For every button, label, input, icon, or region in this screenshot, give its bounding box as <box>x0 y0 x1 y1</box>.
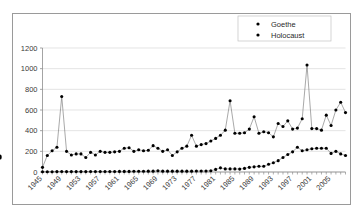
data-point <box>281 125 284 128</box>
chart-figure: 0200400600800100012001945194919531957196… <box>0 0 364 221</box>
data-point <box>305 148 308 151</box>
data-point <box>46 170 49 173</box>
data-point <box>320 147 323 150</box>
y-tick-label: 1200 <box>21 44 38 53</box>
data-point <box>94 153 97 156</box>
data-point <box>128 170 131 173</box>
data-point <box>60 170 63 173</box>
data-point <box>171 154 174 157</box>
data-point <box>108 170 111 173</box>
data-point <box>113 150 116 153</box>
data-point <box>152 170 155 173</box>
data-point <box>291 128 294 131</box>
y-tick-label: 600 <box>25 106 38 115</box>
data-point <box>190 170 193 173</box>
data-point <box>219 166 222 169</box>
data-point <box>89 170 92 173</box>
data-point <box>310 127 313 130</box>
data-point <box>262 130 265 133</box>
data-point <box>344 111 347 114</box>
data-point <box>339 101 342 104</box>
data-point <box>60 95 63 98</box>
data-point <box>70 153 73 156</box>
data-point <box>229 99 232 102</box>
data-point <box>137 170 140 173</box>
data-point <box>209 169 212 172</box>
data-point <box>180 147 183 150</box>
data-point <box>79 152 82 155</box>
data-point <box>257 165 260 168</box>
data-point <box>286 119 289 122</box>
data-point <box>185 170 188 173</box>
legend-marker-holocaust <box>256 33 259 36</box>
data-point <box>339 152 342 155</box>
data-point <box>79 170 82 173</box>
data-point <box>257 132 260 135</box>
x-tick-label: 1949 <box>45 174 63 192</box>
data-point <box>325 147 328 150</box>
data-point <box>123 170 126 173</box>
data-point <box>204 169 207 172</box>
data-point <box>84 170 87 173</box>
data-point <box>180 170 183 173</box>
data-point <box>243 131 246 134</box>
data-point <box>310 147 313 150</box>
data-point <box>334 150 337 153</box>
data-point <box>161 170 164 173</box>
data-point <box>55 170 58 173</box>
data-point <box>238 168 241 171</box>
data-point <box>200 170 203 173</box>
data-point <box>243 167 246 170</box>
x-tick-label: 1997 <box>276 174 294 192</box>
data-point <box>224 129 227 132</box>
data-point <box>301 149 304 152</box>
data-point <box>248 166 251 169</box>
x-tick-label: 1965 <box>122 174 140 192</box>
data-point <box>70 170 73 173</box>
data-point <box>103 151 106 154</box>
data-point <box>320 129 323 132</box>
data-point <box>142 170 145 173</box>
y-axis-labels: 020040060080010001200 <box>21 44 43 177</box>
data-point <box>204 142 207 145</box>
data-point <box>195 145 198 148</box>
data-point <box>277 159 280 162</box>
x-tick-label: 1981 <box>199 174 217 192</box>
legend-marker-goethe <box>256 22 259 25</box>
data-point <box>176 170 179 173</box>
data-point <box>219 134 222 137</box>
chart-canvas: 0200400600800100012001945194919531957196… <box>0 0 364 221</box>
data-point <box>344 154 347 157</box>
legend: GoetheHolocaust <box>238 16 331 41</box>
x-tick-label: 2005 <box>314 174 332 192</box>
y-tick-label: 800 <box>25 85 38 94</box>
data-point <box>248 128 251 131</box>
data-point <box>103 170 106 173</box>
data-point <box>147 149 150 152</box>
data-point <box>325 114 328 117</box>
data-point <box>277 122 280 125</box>
x-tick-label: 1969 <box>141 174 159 192</box>
data-point <box>253 165 256 168</box>
x-tick-label: 1993 <box>257 174 275 192</box>
data-point <box>94 170 97 173</box>
data-point <box>75 170 78 173</box>
data-point <box>334 108 337 111</box>
data-point <box>233 132 236 135</box>
data-point <box>166 170 169 173</box>
data-point <box>132 150 135 153</box>
data-point <box>142 149 145 152</box>
data-point <box>41 170 44 173</box>
data-point <box>272 161 275 164</box>
gridlines <box>43 48 346 172</box>
data-point <box>190 134 193 137</box>
x-axis-labels: 1945194919531957196119651969197319771981… <box>26 172 346 192</box>
data-point <box>55 146 58 149</box>
data-point <box>108 151 111 154</box>
data-point <box>51 149 54 152</box>
data-point <box>51 170 54 173</box>
data-point <box>152 144 155 147</box>
data-point <box>41 166 44 169</box>
data-point <box>137 148 140 151</box>
data-point <box>301 117 304 120</box>
